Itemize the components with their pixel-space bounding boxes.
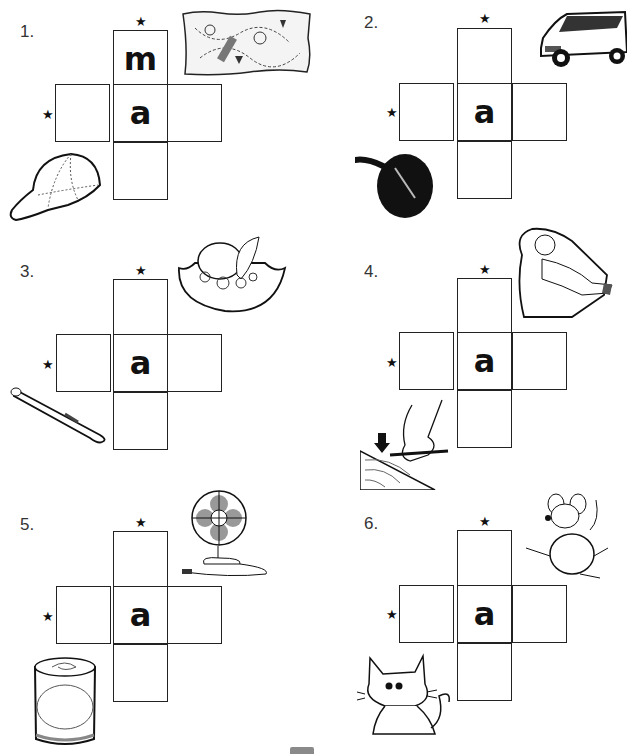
- cell-top[interactable]: [457, 28, 512, 86]
- cell-right[interactable]: [167, 586, 222, 644]
- baseball-bat-icon: [10, 380, 110, 445]
- across-start-star-icon: ★: [386, 608, 398, 621]
- cell-center: a: [113, 334, 168, 392]
- cell-left[interactable]: [399, 585, 454, 643]
- down-start-star-icon: ★: [135, 516, 147, 529]
- cell-right[interactable]: [512, 83, 567, 141]
- puzzle-number: 2.: [364, 13, 378, 33]
- puzzle-number: 5.: [20, 515, 34, 535]
- down-start-star-icon: ★: [479, 12, 491, 25]
- page-tab-marker: [290, 747, 314, 754]
- cell-top[interactable]: [457, 278, 512, 336]
- cat-icon: [355, 648, 453, 738]
- across-start-star-icon: ★: [386, 106, 398, 119]
- can-icon: [32, 655, 98, 747]
- puzzle-6: 6. ★ ★ a: [0, 0, 313, 250]
- cell-top[interactable]: [457, 530, 512, 588]
- cell-bottom[interactable]: [457, 643, 512, 701]
- cell-center: a: [457, 83, 512, 141]
- cell-top[interactable]: [113, 531, 168, 589]
- hand-drawing-icon: [360, 395, 455, 490]
- man-napping-icon: [512, 225, 617, 320]
- cell-bottom[interactable]: [113, 392, 168, 450]
- cell-bottom[interactable]: [457, 141, 512, 199]
- frying-pan-icon: [355, 148, 435, 220]
- across-start-star-icon: ★: [386, 356, 398, 369]
- cell-right[interactable]: [512, 585, 567, 643]
- down-start-star-icon: ★: [479, 515, 491, 528]
- cell-left[interactable]: [56, 586, 111, 644]
- cell-bottom[interactable]: [113, 644, 168, 702]
- down-start-star-icon: ★: [479, 263, 491, 276]
- puzzle-number: 3.: [20, 262, 34, 282]
- cell-top[interactable]: [113, 279, 168, 337]
- down-start-star-icon: ★: [135, 264, 147, 277]
- cell-center: a: [457, 332, 512, 390]
- van-icon: [537, 8, 627, 70]
- cell-bottom[interactable]: [457, 390, 512, 448]
- puzzle-number: 4.: [364, 262, 378, 282]
- cell-right[interactable]: [512, 332, 567, 390]
- rat-icon: [520, 490, 610, 580]
- across-start-star-icon: ★: [42, 610, 54, 623]
- electric-fan-icon: [180, 488, 272, 578]
- cell-left[interactable]: [399, 83, 454, 141]
- across-start-star-icon: ★: [42, 358, 54, 371]
- cell-center: a: [457, 585, 512, 643]
- cell-center: a: [113, 586, 168, 644]
- puzzle-number: 6.: [364, 514, 378, 534]
- cell-left[interactable]: [399, 332, 454, 390]
- cell-right[interactable]: [167, 334, 222, 392]
